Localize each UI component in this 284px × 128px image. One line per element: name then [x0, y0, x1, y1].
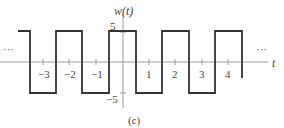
x-tick-label-neg1: −1 [91, 68, 103, 80]
ellipsis-right: ··· [256, 43, 267, 55]
x-tick-label-2: 2 [172, 68, 178, 80]
figure-caption: (c) [128, 114, 141, 127]
x-tick-label-3: 3 [199, 68, 205, 80]
ellipsis-left: ··· [3, 43, 14, 55]
square-wave-diagram: w(t) t 5 −5 −3 −2 −1 1 2 3 4 ··· ··· (c) [0, 0, 284, 128]
x-tick-label-neg2: −2 [64, 68, 76, 80]
y-tick-label-5: 5 [110, 20, 116, 32]
x-axis-label: t [272, 56, 276, 70]
y-tick-label-neg5: −5 [106, 93, 118, 105]
x-tick-label-1: 1 [146, 68, 152, 80]
x-tick-label-4: 4 [225, 68, 231, 80]
x-tick-label-neg3: −3 [38, 68, 50, 80]
y-axis-label: w(t) [114, 4, 133, 18]
